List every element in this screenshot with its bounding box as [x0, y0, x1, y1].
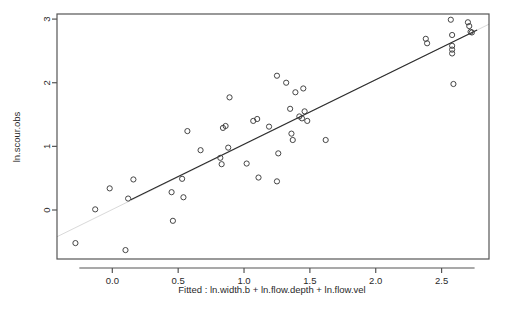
y-tick-label: 2 — [41, 80, 52, 85]
scatter-plot-figure: 0123 0.00.51.01.52.02.5 Fitted : ln.widt… — [0, 0, 507, 309]
chart-background — [0, 0, 507, 309]
x-tick-label: 2.0 — [369, 275, 382, 286]
x-axis-title: Fitted : ln.width.b + ln.flow.depth + ln… — [178, 284, 365, 295]
x-tick-label: 0.0 — [106, 275, 119, 286]
y-axis-title: ln.scour.obs — [11, 111, 22, 162]
y-tick-label: 3 — [41, 16, 52, 21]
chart-canvas: 0123 0.00.51.01.52.02.5 Fitted : ln.widt… — [0, 0, 507, 309]
x-tick-label: 2.5 — [435, 275, 448, 286]
y-tick-label: 0 — [41, 207, 52, 212]
y-tick-label: 1 — [41, 144, 52, 149]
